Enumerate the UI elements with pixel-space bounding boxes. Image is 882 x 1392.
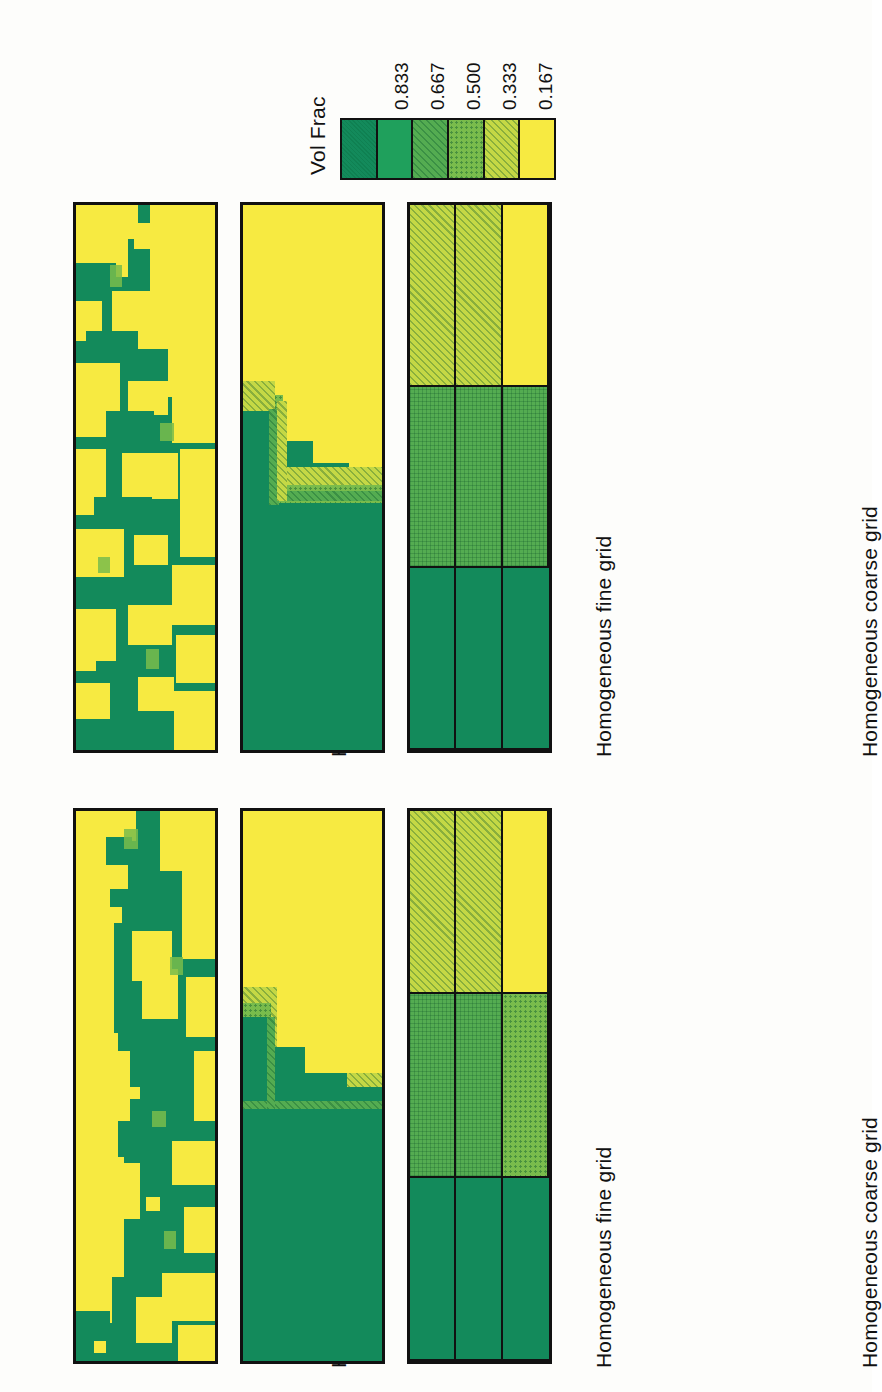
coarse-cell-a-1-0 [410, 994, 456, 1177]
colorbar-band-2 [378, 120, 414, 178]
heterogeneous-field-a [76, 811, 215, 1361]
coarse-cell-a-2-2 [503, 1178, 549, 1361]
panel-rev-b-homogeneous-coarse [407, 202, 552, 753]
colorbar-tick-0667: 0.667 [427, 62, 449, 110]
colorbar-tick-0500: 0.500 [463, 62, 485, 110]
row-label-homogeneous-fine-b: Homogeneous fine grid [592, 536, 616, 757]
coarse-cell-a-2-1 [456, 1178, 502, 1361]
coarse-cell-a-0-0 [410, 811, 456, 994]
coarse-grid-b [410, 205, 549, 750]
coarse-cell-b-2-0 [410, 568, 456, 750]
coarse-cell-b-2-2 [503, 568, 549, 750]
panel-rev-a-heterogeneous-fine [73, 808, 218, 1364]
coarse-cell-a-0-1 [456, 811, 502, 994]
coarse-cell-b-1-2 [503, 387, 549, 569]
heterogeneous-field-b [76, 205, 215, 750]
coarse-cell-b-1-0 [410, 387, 456, 569]
panel-rev-a-homogeneous-fine [240, 808, 385, 1364]
colorbar-tick-0833: 0.833 [391, 62, 413, 110]
colorbar [340, 118, 556, 180]
row-label-homogeneous-coarse-b: Homogeneous coarse grid [858, 506, 882, 757]
colorbar-tick-0333: 0.333 [499, 62, 521, 110]
coarse-cell-a-0-2 [503, 811, 549, 994]
colorbar-band-5 [485, 120, 521, 178]
homogeneous-field-a [243, 811, 382, 1361]
colorbar-band-3 [413, 120, 449, 178]
coarse-cell-b-0-1 [456, 205, 502, 387]
coarse-cell-b-2-1 [456, 568, 502, 750]
panel-rev-b-heterogeneous-fine [73, 202, 218, 753]
coarse-cell-b-0-2 [503, 205, 549, 387]
coarse-grid-a [410, 811, 549, 1361]
colorbar-band-4 [449, 120, 485, 178]
coarse-cell-a-2-0 [410, 1178, 456, 1361]
coarse-cell-a-1-1 [456, 994, 502, 1177]
legend-title: Vol Frac [306, 96, 330, 175]
colorbar-band-1 [342, 120, 378, 178]
colorbar-tick-0167: 0.167 [535, 62, 557, 110]
row-label-homogeneous-fine-a: Homogeneous fine grid [592, 1147, 616, 1368]
coarse-cell-b-1-1 [456, 387, 502, 569]
coarse-cell-b-0-0 [410, 205, 456, 387]
panel-rev-b-homogeneous-fine [240, 202, 385, 753]
panel-rev-a-homogeneous-coarse [407, 808, 552, 1364]
colorbar-band-6 [520, 120, 554, 178]
coarse-cell-a-1-2 [503, 994, 549, 1177]
homogeneous-field-b [243, 205, 382, 750]
row-label-homogeneous-coarse-a: Homogeneous coarse grid [858, 1117, 882, 1368]
